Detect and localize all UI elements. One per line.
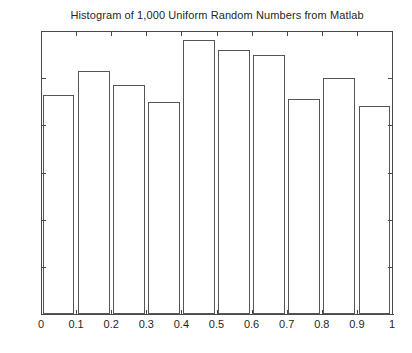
y-tick-mark-left: [42, 173, 46, 174]
x-tick-mark-top: [252, 32, 253, 36]
x-tick-mark-top: [357, 32, 358, 36]
x-tick-mark-top: [146, 32, 147, 36]
x-axis-tick-label: 0.2: [104, 319, 119, 330]
x-tick-mark-bottom: [76, 310, 77, 314]
histogram-bar: [288, 99, 320, 314]
y-tick-mark-left: [42, 78, 46, 79]
x-axis-tick-label: 0.6: [244, 319, 259, 330]
x-axis-tick-label: 0: [38, 319, 44, 330]
axis-line-bottom: [41, 314, 394, 315]
x-axis-tick-label: 0.4: [174, 319, 189, 330]
x-tick-mark-bottom: [181, 310, 182, 314]
x-axis-tick-label: 0.1: [68, 319, 83, 330]
x-axis-tick-label: 0.7: [279, 319, 294, 330]
y-tick-mark-left: [42, 314, 46, 315]
x-tick-mark-top: [322, 32, 323, 36]
y-tick-mark-left: [42, 267, 46, 268]
x-tick-mark-top: [392, 32, 393, 36]
histogram-bar: [113, 85, 145, 314]
histogram-bar: [218, 50, 250, 314]
x-tick-mark-bottom: [252, 310, 253, 314]
chart-title: Histogram of 1,000 Uniform Random Number…: [41, 8, 393, 22]
x-tick-mark-top: [181, 32, 182, 36]
histogram-bar: [359, 106, 391, 314]
histogram-bar: [253, 55, 285, 314]
y-tick-mark-right: [388, 314, 392, 315]
histogram-bar: [183, 40, 215, 314]
y-tick-mark-right: [388, 125, 392, 126]
figure-container: Histogram of 1,000 Uniform Random Number…: [0, 0, 412, 353]
x-tick-mark-bottom: [287, 310, 288, 314]
y-tick-mark-right: [388, 220, 392, 221]
plot-area: 00.10.20.30.40.50.60.70.80.91: [41, 31, 393, 315]
histogram-bar: [323, 78, 355, 314]
x-axis-tick-label: 0.3: [139, 319, 154, 330]
y-tick-mark-right: [388, 78, 392, 79]
histogram-bar: [148, 102, 180, 314]
x-tick-mark-bottom: [146, 310, 147, 314]
histogram-bar: [43, 95, 75, 314]
y-tick-mark-right: [388, 31, 392, 32]
x-axis-tick-label: 0.9: [349, 319, 364, 330]
x-tick-mark-bottom: [357, 310, 358, 314]
x-axis-tick-label: 1: [389, 319, 395, 330]
histogram-bar: [78, 71, 110, 314]
y-tick-mark-left: [42, 31, 46, 32]
x-axis-tick-label: 0.5: [209, 319, 224, 330]
x-tick-mark-bottom: [111, 310, 112, 314]
x-tick-mark-bottom: [392, 310, 393, 314]
x-tick-mark-top: [41, 32, 42, 36]
x-tick-mark-top: [217, 32, 218, 36]
y-tick-mark-right: [388, 173, 392, 174]
y-tick-mark-left: [42, 125, 46, 126]
y-tick-mark-left: [42, 220, 46, 221]
x-axis-tick-label: 0.8: [314, 319, 329, 330]
x-tick-mark-top: [76, 32, 77, 36]
x-tick-mark-top: [287, 32, 288, 36]
x-tick-mark-bottom: [217, 310, 218, 314]
y-tick-mark-right: [388, 267, 392, 268]
axis-line-right: [392, 31, 393, 315]
x-tick-mark-top: [111, 32, 112, 36]
x-tick-mark-bottom: [322, 310, 323, 314]
